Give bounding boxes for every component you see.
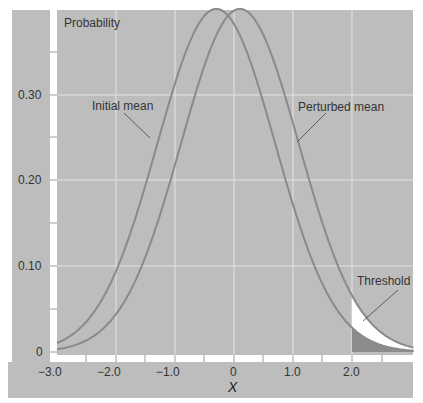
x-tick-neg1: −1.0: [156, 365, 180, 379]
probability-chart: Probability Initial mean Perturbed mean …: [0, 0, 423, 403]
y-tick-0.10: 0.10: [18, 259, 42, 273]
plot-area: [57, 10, 413, 355]
x-axis-label: X: [227, 379, 238, 395]
y-tick-0.30: 0.30: [18, 88, 42, 102]
x-tick-1: 1.0: [284, 365, 301, 379]
y-axis-label: Probability: [64, 16, 120, 30]
x-tick-2: 2.0: [343, 365, 360, 379]
y-tick-0.20: 0.20: [18, 173, 42, 187]
y-tick-0: 0: [36, 345, 43, 359]
threshold-label: Threshold: [357, 274, 410, 288]
x-tick-neg3: −3.0: [38, 365, 62, 379]
x-tick-neg2: −2.0: [97, 365, 121, 379]
y-axis-panel: [12, 10, 50, 390]
x-tick-0: 0: [230, 365, 237, 379]
x-axis-strip: [50, 355, 413, 362]
perturbed-mean-label: Perturbed mean: [298, 100, 384, 114]
initial-mean-label: Initial mean: [92, 99, 153, 113]
